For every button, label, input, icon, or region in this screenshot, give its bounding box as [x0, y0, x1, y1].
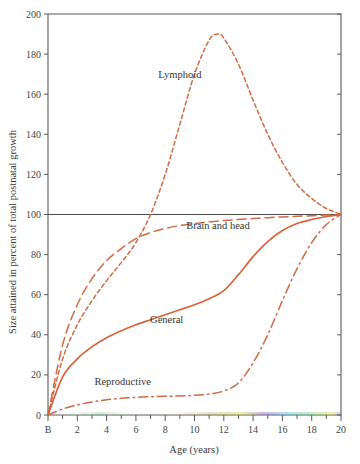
- y-tick-label: 180: [26, 49, 41, 60]
- y-tick-label: 60: [31, 289, 41, 300]
- x-axis-title: Age (years): [169, 444, 219, 456]
- x-tick-label: 2: [75, 424, 80, 435]
- x-tick-label: 4: [104, 424, 109, 435]
- y-tick-label: 120: [26, 169, 41, 180]
- x-tick-label: 6: [133, 424, 138, 435]
- y-tick-label: 0: [36, 410, 41, 421]
- y-tick-label: 20: [31, 369, 41, 380]
- x-tick-label: 8: [163, 424, 168, 435]
- curve-reproductive: [48, 215, 341, 416]
- x-tick-label: 16: [277, 424, 287, 435]
- y-axis-tick-labels: 020406080100120140160180200: [26, 9, 41, 421]
- y-tick-label: 80: [31, 249, 41, 260]
- growth-curves-figure: 020406080100120140160180200 B24681012141…: [0, 0, 360, 464]
- x-axis-tick-labels: B2468101214161820: [45, 424, 346, 435]
- x-tick-label: 20: [336, 424, 346, 435]
- x-tick-label: 18: [307, 424, 317, 435]
- curve-label-reproductive: Reproductive: [94, 376, 151, 387]
- y-axis-title: Size attained in percent of total postna…: [7, 129, 18, 334]
- y-tick-label: 40: [31, 329, 41, 340]
- y-tick-label: 140: [26, 129, 41, 140]
- x-axis-ticks: [48, 415, 341, 421]
- x-tick-label: B: [45, 424, 52, 435]
- x-tick-label: 14: [248, 424, 258, 435]
- x-tick-label: 10: [190, 424, 200, 435]
- curve-label-lymphoid: Lymphoid: [158, 69, 202, 80]
- x-tick-label: 12: [219, 424, 229, 435]
- y-tick-label: 100: [26, 209, 41, 220]
- y-tick-label: 200: [26, 9, 41, 20]
- chart-canvas: 020406080100120140160180200 B24681012141…: [0, 0, 360, 464]
- curve-general: [48, 215, 341, 416]
- curve-brain-and-head: [48, 215, 341, 416]
- axis-chromatic-artifact: [48, 412, 341, 415]
- curve-annotations: LymphoidBrain and headGeneralReproductiv…: [94, 69, 250, 387]
- y-tick-label: 160: [26, 89, 41, 100]
- curve-label-general: General: [150, 314, 183, 325]
- curve-label-brain-and-head: Brain and head: [186, 220, 250, 231]
